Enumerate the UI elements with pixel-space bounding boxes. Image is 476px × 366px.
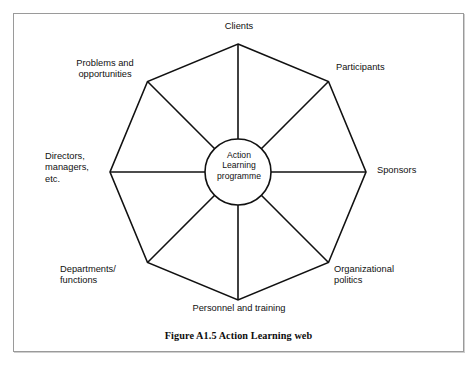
spoke-organizational: [261, 195, 328, 262]
node-label-participants: Participants: [336, 62, 416, 73]
centre-label: Action Learning programme: [206, 150, 272, 181]
figure-container: Action Learning programme Clients Partic…: [0, 0, 476, 366]
node-label-departments-functions: Departments/ functions: [60, 264, 146, 287]
spoke-participants: [261, 82, 328, 149]
node-label-personnel-and-training: Personnel and training: [173, 303, 305, 314]
node-label-directors-managers-etc: Directors, managers, etc.: [45, 151, 115, 185]
node-label-clients: Clients: [203, 21, 275, 32]
spoke-departments: [148, 195, 215, 262]
figure-caption: Figure A1.5 Action Learning web: [13, 330, 464, 341]
node-label-sponsors: Sponsors: [377, 165, 457, 176]
node-label-organizational-politics: Organizational politics: [334, 264, 420, 287]
spoke-problems: [148, 82, 215, 149]
node-label-problems-and-opportunities: Problems and opportunities: [62, 58, 148, 81]
